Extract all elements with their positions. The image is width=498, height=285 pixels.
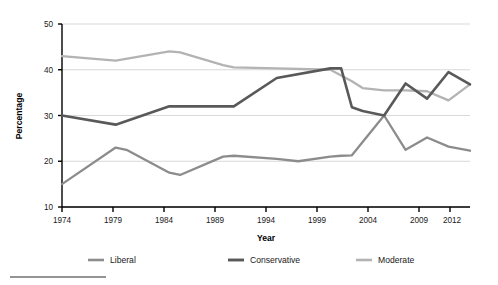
- x-tick-label-1994: 1994: [257, 216, 276, 225]
- x-tick-labels: 1974 1979 1984 1989 1994 1999 2004 2009 …: [53, 216, 462, 225]
- series-line-moderate: [62, 51, 470, 100]
- legend-label-liberal: Liberal: [110, 255, 136, 265]
- x-axis-title: Year: [257, 233, 276, 243]
- x-tick-label-1999: 1999: [308, 216, 327, 225]
- x-tick-label-1989: 1989: [206, 216, 225, 225]
- y-tick-label-50: 50: [44, 20, 54, 29]
- y-tick-label-10: 10: [44, 203, 54, 212]
- y-tick-label-40: 40: [44, 66, 54, 75]
- x-tick-label-1984: 1984: [155, 216, 174, 225]
- x-tick-label-1974: 1974: [53, 216, 72, 225]
- x-tick-label-2012: 2012: [443, 216, 462, 225]
- y-tick-label-20: 20: [44, 157, 54, 166]
- series-line-conservative: [62, 68, 470, 124]
- x-axis: [62, 207, 470, 212]
- plot-area: 50 40 30 20 10 1974 1979 1984 1989 1994 …: [0, 0, 498, 285]
- series-line-liberal: [62, 116, 470, 185]
- y-axis-title: Percentage: [14, 93, 24, 140]
- legend: Liberal Conservative Moderate: [88, 255, 415, 265]
- gridlines: [62, 24, 470, 207]
- chart-canvas: 50 40 30 20 10 1974 1979 1984 1989 1994 …: [0, 0, 498, 285]
- line-chart-figure: 50 40 30 20 10 1974 1979 1984 1989 1994 …: [0, 0, 498, 285]
- x-tick-label-2004: 2004: [359, 216, 378, 225]
- legend-label-moderate: Moderate: [378, 255, 415, 265]
- series-lines: [62, 51, 470, 184]
- y-tick-labels: 50 40 30 20 10: [44, 20, 54, 212]
- x-tick-label-1979: 1979: [104, 216, 123, 225]
- x-tick-label-2009: 2009: [410, 216, 429, 225]
- y-tick-label-30: 30: [44, 112, 54, 121]
- legend-label-conservative: Conservative: [250, 255, 300, 265]
